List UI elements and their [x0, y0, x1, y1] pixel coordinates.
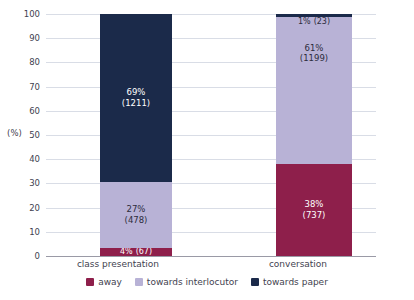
legend-swatch-icon-towards-interlocutor	[135, 278, 143, 286]
stacked-bar-chart: (%) 100 90 80 70 60 50 40 30 20 10 0 4% …	[0, 0, 414, 300]
segment-label-count: (737)	[303, 210, 326, 221]
legend-item-towards-interlocutor[interactable]: towards interlocutor	[135, 277, 238, 287]
segment-label-pct: 69%	[127, 87, 146, 98]
segment-towards-interlocutor-conversation[interactable]: 61% (1199)	[276, 17, 352, 165]
bar-class-presentation[interactable]: 4% (67) 27% (478) 69% (1211)	[100, 14, 172, 256]
segment-label-pct: 27%	[127, 204, 146, 215]
y-tick-50: 50	[0, 131, 40, 140]
y-tick-20: 20	[0, 204, 40, 213]
bar-conversation[interactable]: 38% (737) 61% (1199) 1% (23)	[276, 14, 352, 256]
legend-swatch-icon-towards-paper	[251, 278, 259, 286]
segment-label-count: (1199)	[300, 53, 328, 64]
segment-label-count: (67)	[136, 247, 152, 257]
plot-area: 100 90 80 70 60 50 40 30 20 10 0 4% (67)…	[46, 14, 376, 256]
segment-label-count: (1211)	[122, 98, 150, 109]
y-tick-100: 100	[0, 10, 40, 19]
legend-label-towards-paper: towards paper	[263, 277, 328, 287]
segment-label-pct: 4%	[120, 247, 133, 257]
y-tick-0: 0	[0, 252, 40, 261]
chart-legend: away towards interlocutor towards paper	[0, 277, 414, 287]
segment-away-class-presentation[interactable]: 4% (67)	[100, 248, 172, 257]
y-tick-10: 10	[0, 228, 40, 237]
legend-item-towards-paper[interactable]: towards paper	[251, 277, 328, 287]
y-tick-70: 70	[0, 83, 40, 92]
legend-swatch-icon-away	[86, 278, 94, 286]
axis-baseline	[46, 256, 376, 257]
y-tick-40: 40	[0, 155, 40, 164]
segment-label-count: (478)	[125, 215, 148, 226]
y-tick-90: 90	[0, 34, 40, 43]
legend-item-away[interactable]: away	[86, 277, 122, 287]
segment-towards-paper-class-presentation[interactable]: 69% (1211)	[100, 14, 172, 182]
segment-label-pct: 38%	[305, 199, 324, 210]
segment-towards-interlocutor-class-presentation[interactable]: 27% (478)	[100, 182, 172, 247]
legend-label-towards-interlocutor: towards interlocutor	[147, 277, 238, 287]
y-tick-60: 60	[0, 107, 40, 116]
x-label-conversation: conversation	[222, 259, 374, 269]
segment-away-conversation[interactable]: 38% (737)	[276, 164, 352, 256]
x-label-class-presentation: class presentation	[46, 259, 190, 269]
legend-label-away: away	[98, 277, 122, 287]
segment-towards-paper-conversation[interactable]: 1% (23)	[276, 14, 352, 17]
y-tick-30: 30	[0, 179, 40, 188]
segment-label-count: (23)	[314, 17, 330, 27]
segment-label-pct: 1%	[298, 17, 311, 27]
y-tick-80: 80	[0, 58, 40, 67]
segment-label-pct: 61%	[305, 43, 324, 54]
